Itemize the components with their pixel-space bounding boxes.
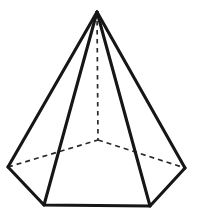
pyramid-drawing [0, 0, 197, 220]
pyramid-figure [0, 0, 197, 220]
hidden-altitude-axis [97, 12, 98, 140]
